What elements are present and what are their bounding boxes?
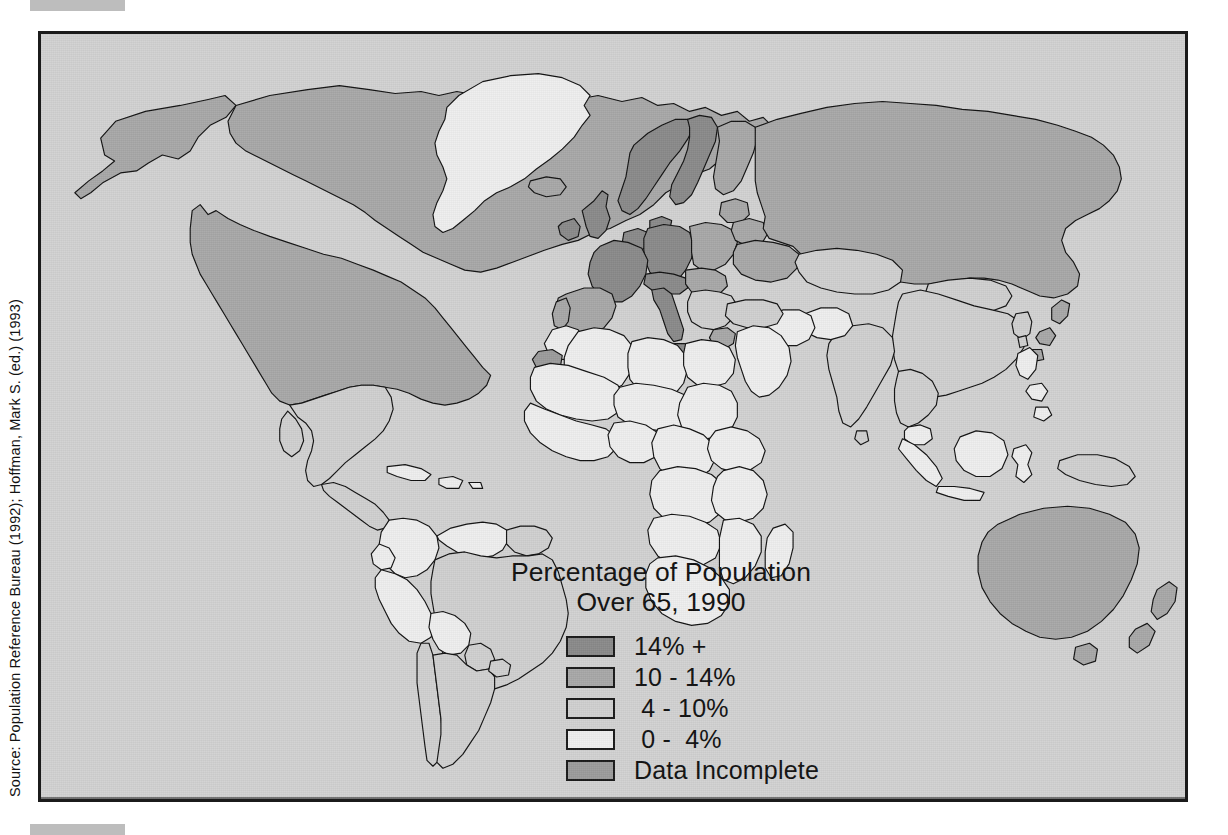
legend-row-4-10: 4 - 10%	[566, 693, 871, 724]
legend-swatch-0-4	[566, 729, 615, 750]
map-legend: Percentage of Population Over 65, 1990 1…	[451, 558, 871, 786]
region-baltics	[719, 199, 749, 223]
legend-swatch-data-incomplete	[566, 760, 615, 781]
legend-label-data-incomplete: Data Incomplete	[634, 756, 819, 785]
legend-label-over-14: 14% +	[634, 632, 707, 661]
region-ukraine	[733, 240, 799, 282]
region-guianas	[507, 526, 553, 556]
region-egypt	[684, 340, 736, 388]
region-turkey	[725, 300, 783, 328]
scan-artifact-bottom	[30, 824, 125, 835]
region-cuba	[387, 465, 431, 481]
region-sulawesi	[1012, 445, 1032, 483]
legend-row-10-14: 10 - 14%	[566, 662, 871, 693]
legend-label-0-4: 0 - 4%	[634, 725, 722, 754]
legend-row-data-incomplete: Data Incomplete	[566, 755, 871, 786]
region-finland	[713, 121, 757, 194]
region-sri-lanka	[855, 431, 869, 445]
legend-label-10-14: 10 - 14%	[634, 663, 736, 692]
region-kenya-tanzania	[711, 467, 767, 523]
region-new-zealand	[1129, 582, 1177, 653]
region-alaska	[75, 96, 236, 199]
legend-swatch-4-10	[566, 698, 615, 719]
region-poland	[690, 223, 738, 271]
region-india	[827, 324, 895, 427]
region-australia	[978, 506, 1139, 639]
legend-title: Percentage of Population Over 65, 1990	[451, 558, 871, 617]
legend-row-0-4: 0 - 4%	[566, 724, 871, 755]
map-frame: Percentage of Population Over 65, 1990 1…	[38, 31, 1188, 802]
region-new-guinea	[1058, 455, 1136, 487]
region-java	[936, 486, 984, 500]
region-tasmania	[1074, 643, 1098, 665]
region-sumatra	[899, 439, 943, 487]
region-central-america	[322, 482, 390, 530]
scan-artifact-top	[30, 0, 125, 11]
source-credit: Source: Population Reference Bureau (199…	[0, 0, 30, 835]
legend-swatch-10-14	[566, 667, 615, 688]
legend-swatch-over-14	[566, 636, 615, 657]
region-peru	[375, 570, 435, 643]
legend-label-4-10: 4 - 10%	[634, 694, 729, 723]
legend-row-over-14: 14% +	[566, 631, 871, 662]
region-ethiopia-horn	[708, 427, 766, 473]
region-philippines	[1016, 348, 1052, 421]
region-taiwan	[1018, 336, 1028, 348]
region-venezuela	[437, 522, 509, 558]
region-hispaniola	[439, 477, 463, 489]
region-borneo	[954, 431, 1008, 477]
region-puerto-rico	[469, 482, 483, 488]
legend-entries: 14% + 10 - 14% 4 - 10% 0 - 4% Data Incom…	[451, 631, 871, 786]
